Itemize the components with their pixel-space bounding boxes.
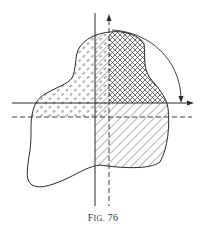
caption-number: 76 [108, 212, 119, 223]
cross-hatch-region [109, 20, 179, 103]
figure-caption: FIG. 76 [0, 212, 206, 223]
figure-76-diagram [0, 0, 206, 231]
arrowhead-up-icon [107, 14, 112, 21]
arrowhead-right-icon [187, 101, 194, 106]
arc-arrowhead-icon [179, 96, 184, 103]
caption-smallcaps: IG. [94, 214, 105, 223]
